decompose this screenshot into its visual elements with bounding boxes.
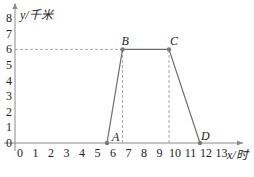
x-axis-label: x/时 (226, 148, 250, 162)
distance-time-chart: 012345678910111213012345678 ABCD y/千米 x/… (0, 0, 254, 177)
y-tick-label: 6 (6, 42, 12, 56)
x-tick-label: 11 (185, 146, 197, 160)
y-axis-label: y/千米 (19, 8, 55, 22)
y-tick-label: 8 (6, 11, 12, 25)
series-polyline (107, 49, 200, 143)
point-label-c: C (170, 34, 179, 48)
y-tick-label: 0 (6, 136, 12, 150)
x-tick-label: 9 (157, 146, 163, 160)
y-tick-label: 3 (6, 89, 12, 103)
point-label-d: D (200, 129, 210, 143)
chart-svg: 012345678910111213012345678 ABCD y/千米 x/… (0, 0, 254, 177)
x-tick-label: 8 (141, 146, 147, 160)
x-tick-label: 10 (169, 146, 181, 160)
x-tick-label: 1 (33, 146, 39, 160)
x-tick-label: 12 (200, 146, 212, 160)
data-points: ABCD (105, 34, 210, 145)
x-tick-label: 5 (95, 146, 101, 160)
y-tick-label: 4 (6, 74, 12, 88)
x-axis-arrow-icon (237, 141, 243, 146)
x-tick-label: 0 (17, 146, 23, 160)
x-tick-label: 6 (110, 146, 116, 160)
y-axis-arrow-icon (13, 3, 18, 9)
x-tick-label: 13 (216, 146, 228, 160)
x-tick-label: 3 (64, 146, 70, 160)
x-tick-label: 4 (79, 146, 85, 160)
y-tick-label: 7 (6, 27, 12, 41)
y-tick-label: 1 (6, 120, 12, 134)
point-label-b: B (122, 34, 130, 48)
series-line (107, 49, 200, 143)
y-tick-label: 2 (6, 105, 12, 119)
point-label-a: A (111, 130, 120, 144)
dashed-guides (15, 49, 169, 143)
x-tick-label: 2 (48, 146, 54, 160)
x-tick-label: 7 (126, 146, 132, 160)
point-marker (105, 141, 109, 145)
y-tick-label: 5 (6, 58, 12, 72)
